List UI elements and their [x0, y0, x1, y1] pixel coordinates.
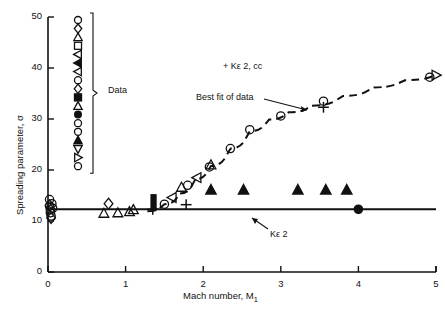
y-axis-title: Spreading parameter, σ [14, 115, 25, 215]
legend-symbol [74, 163, 81, 170]
marker-layer [45, 16, 441, 223]
data-point [293, 184, 303, 194]
legend-symbol [75, 111, 82, 118]
legend-symbol [74, 42, 81, 49]
legend-symbol [74, 33, 82, 41]
data-point [238, 184, 248, 194]
x-tick-label: 2 [193, 278, 213, 289]
data-point [354, 205, 362, 213]
best-fit-leader [264, 99, 307, 110]
figure-container: 01020304050 012345 Spreading parameter, … [0, 0, 445, 312]
data-point [277, 112, 285, 120]
data-point [104, 198, 113, 209]
y-axis-title-text: Spreading parameter, σ [14, 115, 25, 215]
data-point [184, 181, 192, 189]
data-point [321, 184, 331, 194]
legend-symbol [74, 59, 82, 67]
legend-box [90, 13, 97, 173]
annotation-ke2cc-text: + Kε 2, cc [223, 61, 262, 71]
x-tick-label: 5 [426, 278, 445, 289]
y-tick-label: 10 [20, 214, 42, 225]
legend-symbol [74, 84, 81, 93]
data-point [342, 184, 352, 194]
data-point [177, 182, 187, 191]
legend-symbol [74, 128, 81, 135]
x-tick-label: 0 [38, 278, 58, 289]
chart-canvas [0, 0, 445, 312]
data-point [151, 195, 156, 211]
legend-data-label-text: Data [108, 85, 127, 95]
data-point [167, 193, 176, 203]
annotation-ke2: Kε 2 [270, 229, 288, 239]
y-tick-label: 0 [20, 265, 42, 276]
y-tick-label: 50 [20, 10, 42, 21]
x-axis-title: Mach number, M1 [183, 290, 258, 304]
legend-data-label: Data [108, 85, 127, 95]
annotation-best-fit-text: Best fit of data [196, 92, 254, 102]
legend-bracket [90, 13, 97, 173]
best-fit-curve [147, 75, 436, 211]
legend-symbol [74, 50, 82, 58]
legend-symbol [75, 153, 83, 161]
data-point [206, 184, 216, 194]
x-tick-label: 1 [116, 278, 136, 289]
legend-symbol [74, 120, 81, 127]
legend-symbol [74, 77, 81, 84]
x-tick-label: 3 [271, 278, 291, 289]
legend-symbol [74, 94, 81, 101]
legend-symbol [74, 102, 82, 110]
x-axis-title-subscript: 1 [254, 295, 258, 304]
annotation-ke2cc: + Kε 2, cc [223, 61, 262, 71]
annotation-best-fit: Best fit of data [196, 92, 254, 102]
legend-symbol [74, 136, 82, 144]
x-axis-title-text: Mach number, M [183, 290, 254, 301]
legend-symbol [74, 146, 82, 154]
legend-symbol [74, 67, 82, 75]
legend-symbol [74, 16, 81, 23]
x-tick-label: 4 [348, 278, 368, 289]
y-tick-label: 40 [20, 61, 42, 72]
annotation-ke2-text: Kε 2 [270, 229, 288, 239]
